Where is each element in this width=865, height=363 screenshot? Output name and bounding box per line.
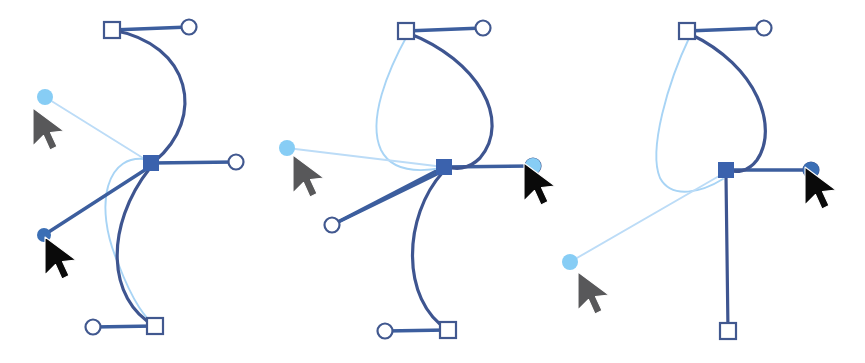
panel-2-drag-cursor-light-pointer-icon [293,155,324,197]
panel-2-anchor-point[interactable] [437,160,452,175]
panel-1-handle-line-down-left [44,166,151,235]
panel-3 [562,21,836,340]
panel-2-bottom-handle-circle-node[interactable] [378,324,393,339]
panel-2-lower-curve [412,172,448,330]
panel-3-preview-drag-line [570,172,726,262]
panel-2-preview-loop-left [376,34,442,170]
vector-path-editor-scene [0,0,865,363]
panel-1-top-handle-bar [112,27,189,30]
panel-2-drag-cursor-light-pointer-icon-glyph [293,155,324,197]
panel-1-preview-lower-arc [118,263,155,326]
panel-1 [33,20,244,335]
panel-3-drag-cursor-light-pointer-icon-glyph [578,272,609,314]
panel-1-drag-cursor-light-pointer-icon [33,108,64,150]
panel-3-preview-loop-left [656,36,723,192]
illustration-canvas [0,0,865,363]
panel-3-top-handle-bar [687,28,764,31]
panel-3-top-handle-square-node[interactable] [679,23,695,39]
panel-3-drag-cursor-light-grab-dot[interactable] [562,254,578,270]
panel-1-bottom-handle-bar [93,326,155,327]
panel-2-preview-drag-line [287,148,444,167]
panel-2-bottom-handle-bar [385,330,448,331]
panel-2-top-handle-square-node[interactable] [398,23,414,39]
panel-1-top-handle-square-node[interactable] [104,22,120,38]
panel-2-top-handle-circle-node[interactable] [476,21,491,36]
panel-1-right-handle-bar [151,162,236,163]
panel-1-right-handle-circle-node[interactable] [229,155,244,170]
panel-1-drag-cursor-light-grab-dot[interactable] [37,89,53,105]
panel-2-bottom-handle-square-node[interactable] [440,322,456,338]
panel-2-top-handle-bar [406,28,483,31]
panel-3-drag-cursor-light-pointer-icon [578,272,609,314]
panel-1-top-handle-circle-node[interactable] [182,20,197,35]
panel-3-anchor-point[interactable] [719,163,734,178]
panel-2-lower-left-handle-circle-node[interactable] [325,218,340,233]
panel-1-drag-cursor-light-pointer-icon-glyph [33,108,64,150]
panel-1-drag-cursor-dark-pointer-icon [45,237,76,279]
panel-2 [279,21,555,339]
panel-3-top-handle-circle-node[interactable] [757,21,772,36]
panel-3-upper-loop-right [690,34,765,171]
panel-2-drag-cursor-light-grab-dot[interactable] [279,140,295,156]
panel-1-bottom-handle-square-node[interactable] [147,318,163,334]
panel-3-bottom-handle-square-node[interactable] [720,323,736,339]
panel-1-drag-cursor-dark-pointer-icon-glyph [45,237,76,279]
panel-1-bottom-handle-circle-node[interactable] [86,320,101,335]
panel-3-drag-cursor-dark-pointer-icon-glyph [805,167,836,209]
panel-3-drag-cursor-dark-pointer-icon [805,167,836,209]
panel-1-upper-curve [112,30,185,161]
panel-2-upper-loop-right [408,33,492,168]
panel-3-lower-vertical [726,176,728,331]
panel-1-anchor-point[interactable] [144,156,159,171]
